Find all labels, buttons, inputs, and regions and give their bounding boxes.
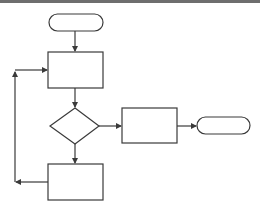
- process-box-1: [48, 52, 103, 88]
- process-box-2: [122, 108, 177, 143]
- end-terminal: [197, 117, 250, 134]
- decision-diamond: [50, 108, 99, 144]
- flowchart-canvas: [0, 0, 260, 214]
- start-terminal: [49, 14, 103, 31]
- process-box-3: [48, 164, 103, 200]
